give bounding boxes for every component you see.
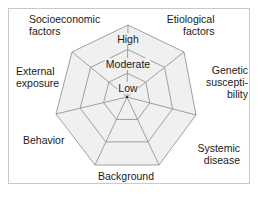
label-line: Background xyxy=(98,170,154,182)
level-label-high: High xyxy=(116,33,140,45)
level-label-moderate: Moderate xyxy=(105,58,151,70)
axis-label-external: External exposure xyxy=(16,65,59,89)
label-line: Systemic xyxy=(186,142,240,154)
axis-label-etiological: Etiological factors xyxy=(166,13,215,37)
label-line: factors xyxy=(29,25,100,37)
level-rings xyxy=(56,25,196,165)
axis-label-behavior: Behavior xyxy=(23,134,64,146)
label-line: Etiological xyxy=(166,13,215,25)
label-line: bility xyxy=(196,88,248,100)
label-line: Genetic xyxy=(196,64,248,76)
label-line: Socioeconomic xyxy=(29,13,100,25)
center-point xyxy=(126,96,128,98)
axis-label-systemic: Systemic disease xyxy=(186,142,240,166)
axis-label-genetic: Genetic suscepti- bility xyxy=(196,64,248,100)
label-line: External xyxy=(16,65,59,77)
axis-label-socioeconomic: Socioeconomic factors xyxy=(29,13,100,37)
level-label-low: Low xyxy=(117,82,138,94)
label-line: factors xyxy=(166,25,215,37)
label-line: suscepti- xyxy=(196,76,248,88)
label-line: exposure xyxy=(16,77,59,89)
label-line: Behavior xyxy=(23,134,64,146)
label-line: disease xyxy=(186,154,240,166)
axis-label-background: Background xyxy=(98,170,154,182)
